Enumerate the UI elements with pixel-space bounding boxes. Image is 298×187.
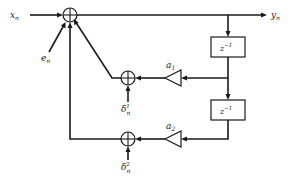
delta2-label: δn2: [121, 161, 130, 174]
delay2-arrow-icon: [226, 94, 231, 100]
feedback2-wire: [70, 26, 121, 139]
output-label: yn: [270, 10, 280, 21]
input-label: xn: [10, 10, 19, 21]
output-arrow-icon: [261, 13, 267, 18]
delta1-label: δn1: [121, 103, 130, 116]
error-label: en: [41, 53, 50, 64]
a2-feed-wire: [185, 120, 228, 139]
a1-in-arrow-icon: [181, 76, 187, 81]
gain-a1-triangle: [165, 70, 181, 86]
signal-flow-diagram: xn yn en z−1 a1 δn1: [0, 0, 298, 187]
feedback2-arrow-icon: [68, 22, 73, 28]
gain-a2-triangle: [165, 131, 181, 147]
gain-a2-label: a2: [166, 121, 175, 132]
sum2-in-arrow-icon: [135, 137, 141, 142]
input-arrow-icon: [57, 13, 63, 18]
error-wire: [49, 25, 64, 52]
delay2-block: z−1: [211, 100, 245, 120]
delay1-block: z−1: [0, 0, 245, 57]
delta1-arrow-icon: [126, 85, 131, 91]
delta2-arrow-icon: [126, 146, 131, 152]
delay1-arrow-icon: [226, 31, 231, 37]
gain-a1-label: a1: [166, 60, 175, 71]
sum1-in-arrow-icon: [135, 76, 141, 81]
sum-delta1-adder: [121, 71, 135, 85]
sum-delta2-adder: [121, 132, 135, 146]
a2-in-arrow-icon: [181, 137, 187, 142]
feedback1-wire: [75, 21, 121, 78]
